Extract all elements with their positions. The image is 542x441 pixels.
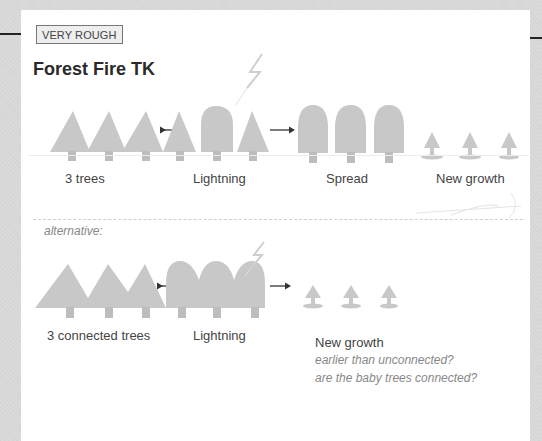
- pencil-scribble: [416, 193, 521, 218]
- ground-line: [29, 155, 529, 156]
- margin-rule-right: [530, 37, 542, 39]
- alt-step-label-new-growth: New growth: [315, 335, 384, 350]
- step-label-spread: Spread: [326, 171, 368, 186]
- connected-pine-trees-icon: [35, 264, 166, 318]
- three-saplings-icon: [303, 285, 398, 309]
- note-earlier: earlier than unconnected?: [315, 353, 454, 367]
- section-divider: [33, 219, 523, 220]
- alternative-heading: alternative:: [44, 224, 103, 238]
- lightning-strike-trees-icon: [163, 106, 269, 161]
- arrow-right-icon: [270, 283, 291, 290]
- step-label-new-growth: New growth: [436, 171, 505, 186]
- lightning-bolt-icon: [235, 54, 262, 106]
- step-label-lightning: Lightning: [193, 171, 246, 186]
- three-pine-trees-icon: [50, 111, 163, 161]
- arrow-right-icon: [270, 127, 295, 134]
- note-baby-trees-connected: are the baby trees connected?: [315, 371, 477, 385]
- alt-step-label-lightning: Lightning: [193, 328, 246, 343]
- sketch-paper: VERY ROUGH Forest Fire TK: [21, 10, 530, 441]
- step-label-3-trees: 3 trees: [65, 171, 105, 186]
- alt-step-label-connected-trees: 3 connected trees: [47, 328, 150, 343]
- margin-rule-left: [0, 33, 22, 35]
